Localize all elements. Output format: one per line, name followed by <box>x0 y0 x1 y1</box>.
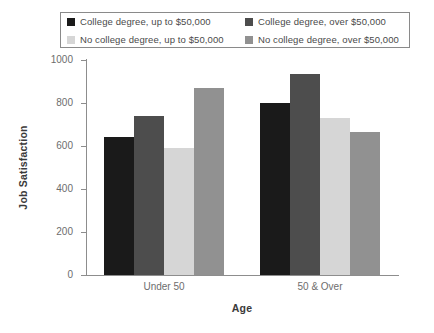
x-category-label-0: Under 50 <box>86 281 242 293</box>
legend-label-3: No college degree, over $50,000 <box>258 35 399 45</box>
bar <box>290 74 320 275</box>
plot-area: 02004006008001000 <box>86 60 398 275</box>
y-axis-title: Job Satisfaction <box>16 60 30 275</box>
bar <box>164 148 194 275</box>
y-tick-mark: 0 <box>81 275 86 276</box>
legend-swatch-icon-1 <box>245 18 253 26</box>
bar-chart: College degree, up to $50,000 College de… <box>0 0 434 333</box>
x-category-label-1: 50 & Over <box>242 281 398 293</box>
legend-entry-college-up-to-50k: College degree, up to $50,000 <box>67 17 245 27</box>
y-tick-label: 600 <box>56 141 73 151</box>
bar <box>350 132 380 275</box>
legend-entry-nocollege-over-50k: No college degree, over $50,000 <box>245 35 417 45</box>
legend-label-2: No college degree, up to $50,000 <box>80 35 224 45</box>
legend-swatch-icon-3 <box>245 36 253 44</box>
bar <box>134 116 164 275</box>
x-axis-line <box>86 275 399 276</box>
bar <box>260 103 290 275</box>
y-tick-label: 0 <box>67 270 73 280</box>
legend-label-0: College degree, up to $50,000 <box>80 17 211 27</box>
legend-entry-college-over-50k: College degree, over $50,000 <box>245 17 417 27</box>
y-tick-label: 200 <box>56 227 73 237</box>
legend-swatch-icon-0 <box>67 18 75 26</box>
y-tick-mark: 200 <box>81 232 86 233</box>
legend-label-1: College degree, over $50,000 <box>258 17 386 27</box>
legend-entry-nocollege-up-to-50k: No college degree, up to $50,000 <box>67 35 245 45</box>
bar <box>320 118 350 275</box>
bar <box>104 137 134 275</box>
bar <box>194 88 224 275</box>
y-tick-mark: 400 <box>81 189 86 190</box>
y-tick-mark: 1000 <box>81 60 86 61</box>
legend-swatch-icon-2 <box>67 36 75 44</box>
y-tick-label: 1000 <box>51 55 73 65</box>
y-tick-mark: 800 <box>81 103 86 104</box>
chart-legend: College degree, up to $50,000 College de… <box>60 12 410 48</box>
x-axis-title: Age <box>86 302 398 314</box>
y-tick-label: 800 <box>56 98 73 108</box>
y-tick-mark: 600 <box>81 146 86 147</box>
y-tick-label: 400 <box>56 184 73 194</box>
